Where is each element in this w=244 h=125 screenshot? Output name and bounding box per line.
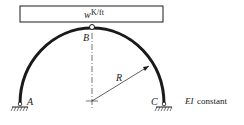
label-b: B [83,32,89,43]
ei-label: EI [184,96,194,106]
pin-support-a-icon [11,102,28,111]
load-units: K/ft [91,8,105,17]
radius-arrowhead-icon [143,66,149,71]
label-c: C [151,96,158,107]
label-a: A [26,96,34,107]
load-symbol: w [84,9,91,20]
diagram-svg: w K/ft R B A C EI constant [0,0,244,125]
radius-label: R [115,72,122,83]
constant-label: constant [197,96,227,106]
hinge-b-icon [90,25,95,30]
arch-diagram: w K/ft R B A C EI constant [0,0,244,125]
